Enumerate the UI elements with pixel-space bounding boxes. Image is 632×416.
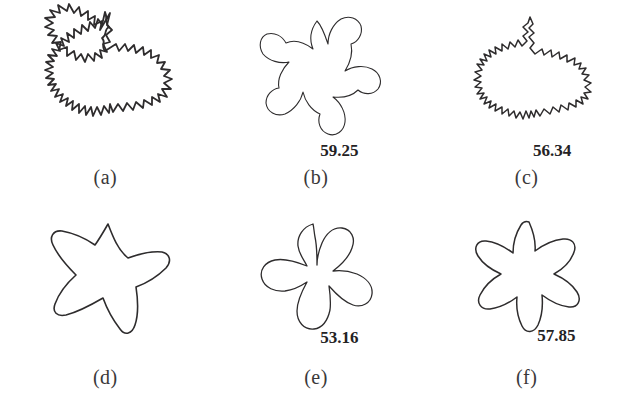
figure-panel-c: 56.34 (c) <box>421 0 632 208</box>
figure-panel-d: (d) <box>0 208 211 416</box>
panel-caption-e: (e) <box>211 366 422 389</box>
figure-panel-e: 53.16 (e) <box>211 208 422 416</box>
value-label-f: 57.85 <box>537 326 575 346</box>
smoothed-six-petal-flower-outline-icon <box>221 0 411 152</box>
figure-panel-f: 57.85 (f) <box>421 208 632 416</box>
jagged-six-point-star-outline-icon <box>432 0 622 152</box>
shape-container-d <box>0 210 211 356</box>
figure-panel-grid: (a) 59.25 (b) 56.34 (c) (d) <box>0 0 632 416</box>
value-label-e: 53.16 <box>320 328 358 348</box>
shape-container-b <box>211 0 422 152</box>
shape-container-c <box>421 0 632 152</box>
smooth-five-point-star-outline-icon <box>10 210 200 356</box>
panel-caption-d: (d) <box>0 366 211 389</box>
figure-panel-b: 59.25 (b) <box>211 0 422 208</box>
noisy-six-point-star-outline-icon <box>10 0 200 152</box>
shape-container-e <box>211 210 422 356</box>
shape-container-a <box>0 0 211 152</box>
panel-caption-f: (f) <box>421 366 632 389</box>
panel-caption-b: (b) <box>211 166 422 189</box>
value-label-c: 56.34 <box>533 141 571 161</box>
panel-caption-c: (c) <box>421 166 632 189</box>
smooth-five-lobe-blob-outline-icon <box>221 210 411 356</box>
value-label-b: 59.25 <box>320 141 358 161</box>
panel-caption-a: (a) <box>0 166 211 189</box>
shape-container-f <box>421 210 632 356</box>
smooth-six-point-star-outline-icon <box>432 210 622 356</box>
figure-panel-a: (a) <box>0 0 211 208</box>
